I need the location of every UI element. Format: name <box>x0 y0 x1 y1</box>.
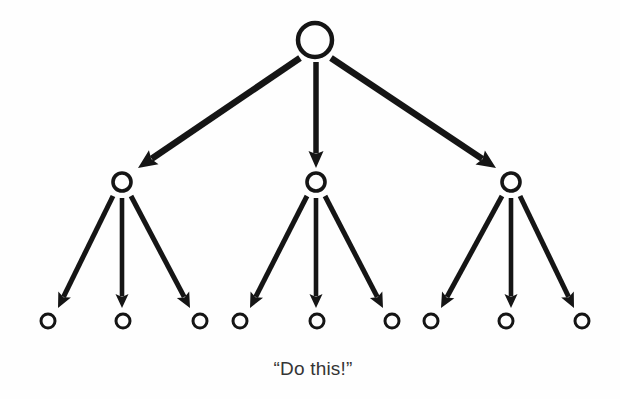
tree-edge <box>131 196 190 308</box>
tree-edge <box>441 196 502 308</box>
tree-node-circle <box>310 314 324 328</box>
tree-edge <box>309 62 324 168</box>
edge-shaft <box>331 58 482 159</box>
tree-edge <box>116 198 129 308</box>
edge-shaft <box>520 196 569 297</box>
tree-node-circle <box>424 314 438 328</box>
tree-node-circle <box>116 314 130 328</box>
tree-node-circle <box>385 314 399 328</box>
tree-node-circle <box>502 173 520 191</box>
edge-shaft <box>152 58 300 159</box>
tree-edge <box>250 196 307 308</box>
edge-shaft <box>447 196 502 297</box>
tree-diagram-canvas: “Do this!” <box>0 0 620 399</box>
tree-node-circle <box>113 173 131 191</box>
edge-shaft <box>325 196 377 297</box>
tree-node-circle <box>233 314 247 328</box>
tree-node-circle <box>499 314 513 328</box>
tree-node-circle <box>307 173 325 191</box>
tree-edge <box>520 196 574 308</box>
tree-edge <box>505 198 518 308</box>
edge-shaft <box>256 196 307 297</box>
edge-shaft <box>64 196 113 297</box>
tree-edge <box>325 196 383 308</box>
tree-node-circle <box>298 23 332 57</box>
tree-edge <box>58 196 113 308</box>
tree-node-circle <box>193 314 207 328</box>
tree-node-circle <box>41 314 55 328</box>
arrowhead-icon <box>309 151 324 168</box>
tree-edge <box>331 58 496 168</box>
tree-node-circle <box>575 314 589 328</box>
tree-edge <box>310 198 323 308</box>
hierarchy-diagram-svg: “Do this!” <box>0 0 620 399</box>
edges-layer <box>58 58 574 308</box>
diagram-caption: “Do this!” <box>273 358 352 379</box>
tree-edge <box>138 58 300 168</box>
edge-shaft <box>131 196 184 297</box>
